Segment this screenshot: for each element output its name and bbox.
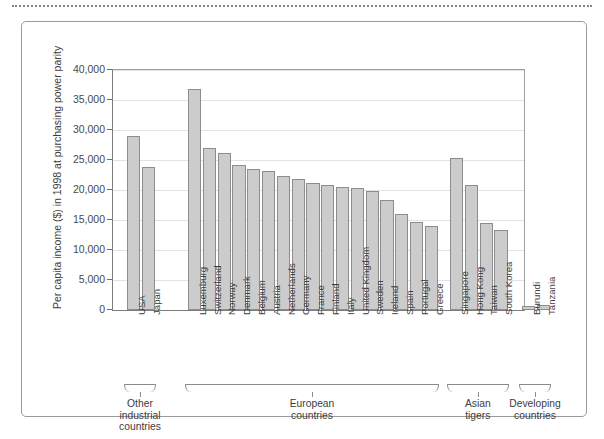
category-label: Ireland [390, 286, 400, 315]
y-axis-tick-label: 35,000 [73, 94, 105, 105]
group-bracket [447, 384, 509, 392]
category-label: Italy [346, 297, 356, 315]
category-label: Netherlands [287, 263, 297, 315]
y-axis-tick-mark [107, 99, 112, 100]
category-label: United Kingdom [361, 247, 371, 315]
group-bracket-tick [312, 392, 313, 397]
y-axis-tick-label: 10,000 [73, 244, 105, 255]
figure-frame: Per capita income ($) in 1998 at purchas… [21, 21, 587, 417]
gridline [113, 100, 524, 101]
group-label-line: Developing [487, 398, 583, 410]
group-label-line: countries [92, 421, 188, 433]
y-axis-tick-label: 20,000 [73, 184, 105, 195]
category-label: Portugal [420, 279, 430, 315]
group-label: Otherindustrialcountries [92, 398, 188, 433]
y-axis-tick-mark [107, 219, 112, 220]
category-label: Finland [331, 284, 341, 315]
y-axis-tick-label: 0 [99, 304, 105, 315]
gridline [113, 130, 524, 131]
y-axis-tick-mark [107, 309, 112, 310]
category-label: Tanzania [547, 277, 557, 315]
group-label-line: Other [92, 398, 188, 410]
y-axis-tick-mark [107, 69, 112, 70]
group-label-line: countries [487, 410, 583, 422]
y-axis-tick-mark [107, 279, 112, 280]
bar[interactable] [127, 136, 140, 310]
y-axis-tick-label: 15,000 [73, 214, 105, 225]
category-label: South Korea [504, 262, 514, 315]
group-label: Europeancountries [264, 398, 360, 421]
category-label: France [316, 285, 326, 315]
group-label-line: industrial [92, 410, 188, 422]
category-label: Hong Kong [475, 267, 485, 315]
category-label: Spain [405, 290, 415, 315]
category-label: Taiwan [489, 285, 499, 315]
group-bracket [124, 384, 156, 392]
category-label: Denmark [242, 276, 252, 315]
y-axis-title: Per capita income ($) in 1998 at purchas… [50, 69, 64, 309]
y-axis-tick-mark [107, 189, 112, 190]
category-label: Austria [272, 285, 282, 315]
group-bracket [519, 384, 551, 392]
category-label: Japan [152, 289, 162, 315]
y-axis-tick-mark [107, 249, 112, 250]
category-label: Germany [301, 276, 311, 315]
group-bracket-tick [140, 392, 141, 397]
top-dotted-rule [12, 5, 592, 9]
category-label: Sweden [375, 280, 385, 315]
category-label: Greece [435, 284, 445, 315]
gridline [113, 70, 524, 71]
y-axis-tick-mark [107, 159, 112, 160]
category-label: Singapore [460, 271, 470, 315]
group-label-line: countries [264, 410, 360, 422]
y-axis-tick-label: 30,000 [73, 124, 105, 135]
group-label-line: European [264, 398, 360, 410]
y-axis-tick-mark [107, 129, 112, 130]
category-label: Luxemburg [198, 267, 208, 315]
y-axis-tick-label: 5,000 [79, 274, 105, 285]
group-label: Developingcountries [487, 398, 583, 421]
group-bracket [185, 384, 439, 392]
category-label: Belgium [257, 280, 267, 315]
category-label: USA [137, 295, 147, 315]
y-axis-tick-label: 40,000 [73, 64, 105, 75]
group-bracket-tick [478, 392, 479, 397]
category-label: Norway [227, 282, 237, 315]
y-axis-tick-label: 25,000 [73, 154, 105, 165]
group-bracket-tick [535, 392, 536, 397]
category-label: Switzerland [213, 265, 223, 315]
category-label: Burundi [532, 282, 542, 315]
